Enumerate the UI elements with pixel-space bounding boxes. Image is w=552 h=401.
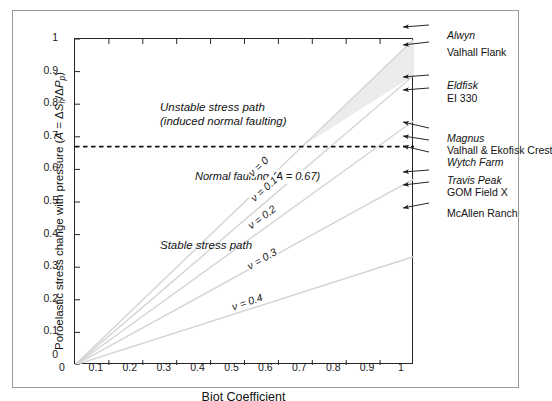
x-tick-label-0p5: 0.5 [215,362,249,372]
plot-area: Unstable stress path (induced normal fau… [74,38,413,364]
callout-label-alwyn: Alwyn [447,30,475,41]
callout-label-eldfisk: Eldfisk [447,80,478,91]
x-tick-label-0p7: 0.7 [282,362,316,372]
plot-graphics [75,39,414,365]
x-tick-label-0p6: 0.6 [248,362,282,372]
x-tick-label-0p4: 0.4 [181,362,215,372]
y-axis-title: Poroelastic stress change with pressure … [53,41,67,381]
figure-border: Unstable stress path (induced normal fau… [12,10,519,388]
x-tick-label-0p9: 0.9 [350,362,384,372]
callout-label-wytch-farm: Wytch Farm [447,157,504,168]
callout-label-valhall-flank: Valhall Flank [447,47,506,58]
callout-label-valhall-ekofisk-crest: Valhall & Ekofisk Crest [447,145,552,156]
annotation-stable-stress-path: Stable stress path [160,239,252,253]
nu-line-0 [75,39,414,365]
x-tick-label-0p3: 0.3 [147,362,181,372]
callout-label-ei-330: EI 330 [447,93,477,104]
x-tick-label-1: 1 [384,362,418,372]
x-tick-label-0p8: 0.8 [316,362,350,372]
callout-label-mcallen-ranch: McAllen Ranch [447,208,518,219]
y-axis-title-wrapper: Poroelastic stress change with pressure … [53,41,73,381]
x-tick-label-0p1: 0.1 [79,362,113,372]
y-tick-marks [75,39,80,365]
annotation-unstable-line1: Unstable stress path [160,101,265,113]
callout-label-gom-field-x: GOM Field X [447,187,508,198]
annotation-unstable-line2: (induced normal faulting) [160,115,287,127]
x-axis-title: Biot Coefficient [74,390,413,401]
callout-label-magnus: Magnus [447,133,484,144]
callout-label-travis-peak: Travis Peak [447,175,502,186]
nu-line-0p3 [75,179,414,365]
x-tick-label-0p2: 0.2 [113,362,147,372]
annotation-unstable-stress-path: Unstable stress path (induced normal fau… [160,101,287,128]
